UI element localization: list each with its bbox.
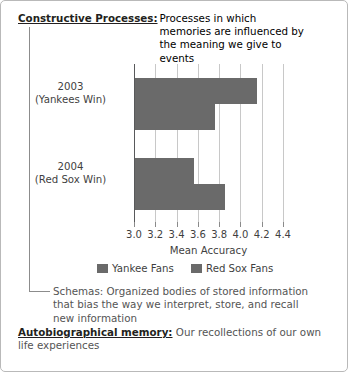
x-tick-label: 3.2 (144, 229, 166, 240)
gridline (262, 64, 263, 222)
axis-tick (198, 222, 199, 227)
category-label-2004: 2004 (Red Sox Win) (13, 161, 128, 186)
bracket-elbow-line (29, 291, 50, 292)
x-tick-label: 4.4 (272, 229, 294, 240)
definition-line: that bias the way we interpret, store, a… (53, 298, 333, 311)
definition-constructive-processes: Processes in which memories are influenc… (160, 12, 310, 65)
bar (135, 104, 215, 130)
entry-constructive-processes: Constructive Processes: Processes in whi… (18, 12, 336, 65)
bar (135, 184, 225, 210)
mean-accuracy-bar-chart: 2003 (Yankees Win) 2004 (Red Sox Win) 3.… (1, 59, 348, 285)
legend-swatch-icon (191, 264, 202, 273)
axis-tick (134, 222, 135, 227)
x-tick-label: 3.4 (166, 229, 188, 240)
x-tick-label: 4.0 (229, 229, 251, 240)
term-constructive-processes: Constructive Processes: (18, 12, 158, 24)
x-tick-label: 3.6 (187, 229, 209, 240)
legend-label: Red Sox Fans (206, 263, 273, 274)
axis-tick (177, 222, 178, 227)
legend-item-red-sox-fans: Red Sox Fans (191, 263, 273, 274)
definition-line: new information (53, 312, 333, 325)
definition-autobiographical-memory-line2: life experiences (18, 339, 336, 352)
x-tick-label: 3.8 (208, 229, 230, 240)
axis-tick (283, 222, 284, 227)
definition-autobiographical-memory-line1: Our recollections of our own (176, 326, 321, 338)
axis-tick (240, 222, 241, 227)
x-tick-label: 3.0 (123, 229, 145, 240)
plot-area (134, 64, 283, 222)
definition-line: Schemas: Organized bodies of stored info… (53, 285, 333, 298)
x-axis-label: Mean Accuracy (134, 245, 283, 256)
x-tick-label: 4.2 (251, 229, 273, 240)
axis-tick (219, 222, 220, 227)
axis-tick (155, 222, 156, 227)
legend-label: Yankee Fans (112, 263, 174, 274)
legend-swatch-icon (97, 264, 108, 273)
entry-schemas: Schemas: Organized bodies of stored info… (53, 285, 333, 325)
legend-item-yankee-fans: Yankee Fans (97, 263, 174, 274)
category-detail: (Red Sox Win) (13, 174, 128, 187)
chart-legend: Yankee Fans Red Sox Fans (97, 263, 307, 274)
category-year: 2004 (13, 161, 128, 174)
bar (135, 78, 257, 104)
bar (135, 158, 194, 184)
gridline (283, 64, 284, 222)
category-year: 2003 (13, 81, 128, 94)
entry-autobiographical-memory: Autobiographical memory: Our recollectio… (18, 326, 336, 353)
category-detail: (Yankees Win) (13, 94, 128, 107)
category-label-2003: 2003 (Yankees Win) (13, 81, 128, 106)
axis-tick (262, 222, 263, 227)
term-autobiographical-memory: Autobiographical memory: (18, 326, 173, 338)
concept-summary-figure: Constructive Processes: Processes in whi… (0, 0, 348, 372)
